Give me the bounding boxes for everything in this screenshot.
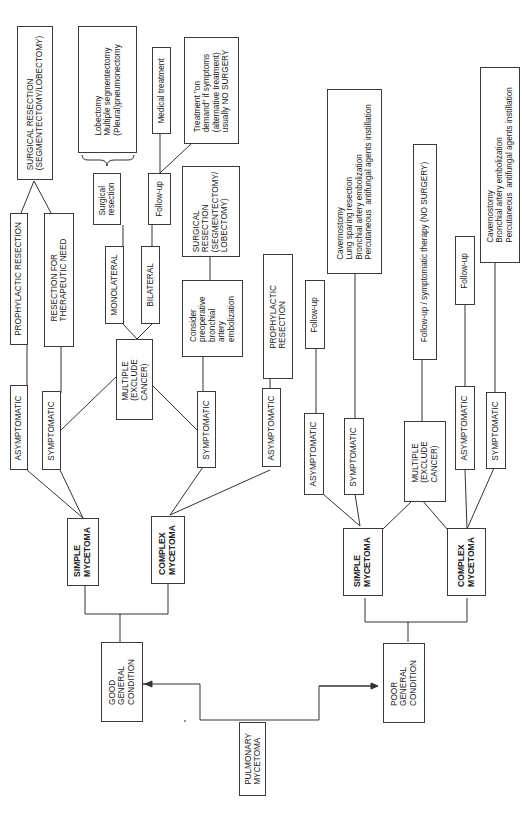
node-label: Follow-up — [155, 181, 164, 217]
node-poor-complex-follow-up: Follow-up — [455, 236, 475, 305]
node-poor-complex-cavernostomy-options: Cavernostomy Bronchial artery embolizati… — [480, 67, 520, 263]
node-label: ASYMPTOMATIC — [14, 395, 23, 460]
node-label: PROPHYLACTIC RESECTION — [14, 222, 23, 336]
node-label: MONOLATERAL — [110, 254, 119, 315]
node-poor-general-condition: POOR GENERAL CONDITION — [383, 643, 425, 723]
node-label: Follow-up — [460, 253, 469, 289]
node-good-simple-therapeutic-resection: RESECTION FOR THERAPEUTIC NEED — [44, 213, 74, 347]
node-good-complex-consider-embolization: Consider preoperative bronchial artery e… — [182, 280, 243, 357]
node-label: Follow-up / symptomatic therapy (NO SURG… — [420, 162, 429, 342]
node-good-multiple-treatment-on-demand: Treatment "on demand" if symptoms (alter… — [184, 37, 239, 144]
node-label: Lobectomy Multiple segmentectomy (Pleura… — [93, 44, 121, 135]
node-pulmonary-mycetoma: PULMONARY MYCETOMA — [239, 722, 266, 796]
node-label: PULMONARY MYCETOMA — [243, 733, 262, 785]
node-good-complex-asymptomatic: ASYMPTOMATIC — [262, 388, 281, 467]
node-label: ASYMPTOMATIC — [460, 396, 469, 461]
node-label: ASYMPTOMATIC — [267, 395, 276, 460]
node-good-multiple-medical-treatment: Medical treatment — [152, 47, 171, 134]
node-good-multiple-follow-up: Follow-up — [148, 173, 171, 225]
node-poor-multiple: MULTIPLE (EXCLUDE CANCER) — [404, 421, 446, 502]
node-good-complex-prophylactic-resection: PROPHYLACTIC RESECTION — [263, 254, 293, 379]
node-label: BILATERAL — [146, 263, 155, 307]
node-poor-complex-asymptomatic: ASYMPTOMATIC — [455, 386, 475, 470]
node-label: Surgical resection — [98, 182, 117, 215]
node-label: ASYMPTOMATIC — [309, 422, 318, 487]
node-label: MULTIPLE (EXCLUDE CANCER) — [411, 441, 439, 482]
node-label: Cavernostomy Bronchial artery embolizati… — [486, 87, 514, 243]
node-good-complex-surgical-resection: SURGICAL RESECTION (SEGMENTECTOMY/ LOBEC… — [182, 166, 240, 257]
node-good-simple-asymptomatic: ASYMPTOMATIC — [10, 385, 28, 470]
node-label: SURGICAL RESECTION (SEGMENTECTOMY/LOBECT… — [26, 36, 45, 170]
node-good-simple-mycetoma: SIMPLE MYCETOMA — [67, 518, 99, 586]
node-good-general-condition: GOOD GENERAL CONDITION — [101, 642, 143, 722]
node-poor-simple-follow-up: Follow-up — [305, 280, 325, 349]
flowchart-canvas: PULMONARY MYCETOMA GOOD GENERAL CONDITIO… — [0, 0, 522, 815]
node-label: COMPLEX MYCETOMA — [457, 537, 477, 587]
node-good-multiple: MULTIPLE (EXCLUDE CANCER) — [116, 339, 153, 420]
node-label: PROPHYLACTIC RESECTION — [269, 285, 288, 349]
node-label: Follow-up — [310, 297, 319, 333]
node-label: POOR GENERAL CONDITION — [390, 660, 418, 706]
node-poor-simple-asymptomatic: ASYMPTOMATIC — [304, 413, 324, 495]
node-label: MULTIPLE (EXCLUDE CANCER) — [120, 359, 148, 400]
node-poor-complex-mycetoma: COMPLEX MYCETOMA — [447, 528, 486, 596]
node-label: COMPLEX MYCETOMA — [158, 525, 178, 575]
node-label: Treatment "on demand" if symptoms (alter… — [193, 49, 231, 132]
node-good-complex-symptomatic: SYMPTOMATIC — [197, 391, 216, 468]
node-good-simple-surgical-resection: SURGICAL RESECTION (SEGMENTECTOMY/LOBECT… — [17, 26, 53, 180]
node-label: Cavernostomy Lung sparing resection Bron… — [336, 104, 374, 260]
node-label: SYMPTOMATIC — [202, 400, 211, 459]
node-poor-complex-symptomatic: SYMPTOMATIC — [486, 392, 506, 469]
node-label: GOOD GENERAL CONDITION — [108, 659, 136, 705]
node-label: SIMPLE MYCETOMA — [73, 527, 93, 577]
node-label: SYMPTOMATIC — [47, 401, 56, 460]
node-good-simple-symptomatic: SYMPTOMATIC — [42, 391, 61, 470]
node-good-multiple-surgical-resection: Surgical resection — [93, 173, 121, 225]
node-label: Consider preoperative bronchial artery e… — [189, 296, 236, 342]
node-label: RESECTION FOR THERAPEUTIC NEED — [50, 239, 69, 322]
node-good-complex-mycetoma: COMPLEX MYCETOMA — [151, 516, 185, 584]
node-good-multiple-monolateral: MONOLATERAL — [105, 246, 124, 324]
node-label: Medical treatment — [157, 58, 166, 123]
node-poor-simple-symptomatic: SYMPTOMATIC — [344, 418, 364, 495]
node-good-multiple-lobectomy-options: Lobectomy Multiple segmentectomy (Pleura… — [78, 26, 137, 153]
node-label: SIMPLE MYCETOMA — [353, 537, 373, 587]
node-poor-multiple-follow-up-therapy: Follow-up / symptomatic therapy (NO SURG… — [413, 144, 437, 360]
node-poor-simple-mycetoma: SIMPLE MYCETOMA — [343, 528, 383, 596]
node-label: SURGICAL RESECTION (SEGMENTECTOMY/ LOBEC… — [192, 171, 230, 251]
node-label: SYMPTOMATIC — [349, 427, 358, 486]
node-good-simple-prophylactic-resection: PROPHYLACTIC RESECTION — [10, 213, 28, 345]
node-poor-simple-cavernostomy-options: Cavernostomy Lung sparing resection Bron… — [327, 89, 382, 274]
node-label: SYMPTOMATIC — [491, 401, 500, 460]
node-good-multiple-bilateral: BILATERAL — [141, 246, 160, 324]
